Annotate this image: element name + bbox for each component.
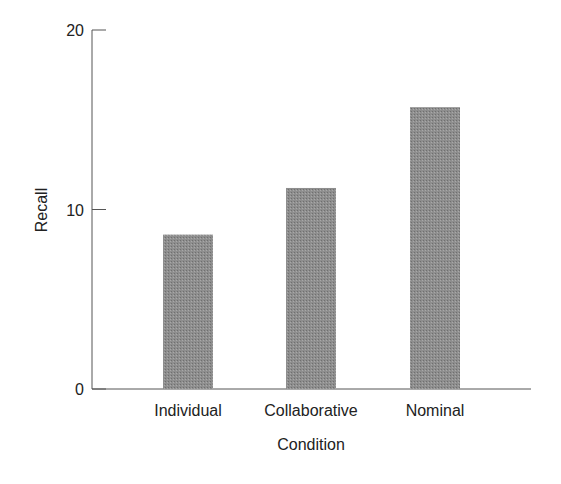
y-tick-label: 10 (66, 202, 84, 219)
bar-nominal (410, 107, 460, 389)
x-tick-label: Nominal (406, 402, 465, 419)
bars (163, 107, 460, 389)
y-tick-label: 0 (75, 381, 84, 398)
x-axis: IndividualCollaborativeNominal (92, 389, 531, 419)
x-tick-label: Collaborative (264, 402, 357, 419)
y-axis: 01020 (66, 22, 106, 398)
y-tick-label: 20 (66, 22, 84, 39)
y-axis-title: Recall (33, 188, 50, 232)
bar-individual (163, 235, 213, 389)
bar-collaborative (286, 188, 336, 389)
x-tick-label: Individual (154, 402, 222, 419)
x-axis-title: Condition (277, 436, 345, 453)
bar-chart: 01020 IndividualCollaborativeNominal Rec… (0, 0, 561, 484)
